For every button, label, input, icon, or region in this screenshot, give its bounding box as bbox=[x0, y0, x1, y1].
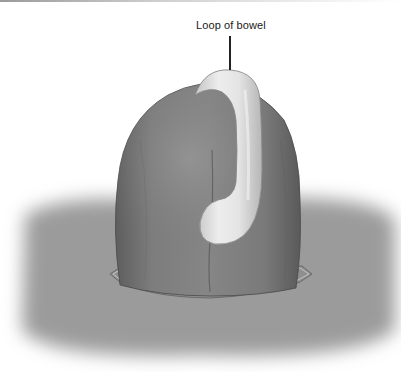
illustration bbox=[0, 0, 401, 372]
label-loop-of-bowel: Loop of bowel bbox=[196, 19, 266, 31]
protruding-organ bbox=[115, 83, 300, 296]
label-leader-line bbox=[229, 36, 231, 70]
